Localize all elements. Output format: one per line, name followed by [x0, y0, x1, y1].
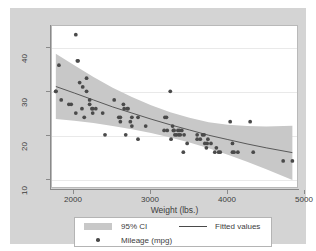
chart-screenshot: 40 30 20 10 2000 3000 4000 5000 Weight (…: [0, 0, 316, 251]
legend-label-fitted-values: Fitted values: [215, 222, 260, 231]
legend-label-ci: 95% CI: [121, 222, 147, 231]
scatter-point: [124, 133, 128, 137]
scatter-point: [69, 102, 73, 106]
scatter-point: [291, 159, 295, 163]
scatter-point: [112, 98, 116, 102]
scatter-point: [136, 115, 140, 119]
scatter-point: [202, 133, 206, 137]
scatter-point: [82, 115, 86, 119]
scatter-point: [118, 120, 122, 124]
scatter-point: [281, 159, 285, 163]
scatter-point: [94, 107, 98, 111]
scatter-point: [228, 120, 232, 124]
scatter-point: [144, 124, 148, 128]
scatter-point: [130, 124, 134, 128]
x-axis-title: Weight (lbs.): [51, 205, 298, 215]
scatter-point: [118, 115, 122, 119]
scatter-point: [218, 150, 222, 154]
scatter-point: [57, 63, 61, 67]
scatter-point: [85, 89, 89, 93]
scatter-point: [165, 115, 169, 119]
scatter-point: [136, 137, 140, 141]
scatter-point: [195, 133, 199, 137]
scatter-point: [251, 150, 255, 154]
scatter-point: [103, 133, 107, 137]
scatter-point: [74, 111, 78, 115]
scatter-point: [172, 129, 176, 133]
y-tick-30: [46, 91, 50, 92]
scatter-point: [178, 133, 182, 137]
y-tick-label-20: 20: [20, 136, 29, 158]
scatter-point: [74, 33, 78, 37]
y-tick-label-40: 40: [20, 48, 29, 70]
scatter-point: [185, 142, 189, 146]
scatter-point: [169, 137, 173, 141]
y-tick-label-10: 10: [20, 180, 29, 202]
legend-swatch-ci: [84, 223, 112, 230]
scatter-point: [165, 129, 169, 133]
scatter-point: [88, 98, 92, 102]
legend-line-fitted: [179, 226, 207, 227]
x-tick-5000: [304, 190, 305, 194]
y-tick-label-30: 30: [20, 92, 29, 114]
plot-canvas: [52, 26, 297, 187]
x-axis-line: [50, 189, 299, 190]
legend-marker-mileage: [96, 238, 100, 242]
chart-legend: 95% CI Fitted values Mileage (mpg): [74, 217, 272, 247]
x-tick-label-5000: 5000: [287, 195, 316, 204]
confidence-interval-band: [56, 54, 293, 180]
scatter-point: [76, 59, 80, 63]
scatter-point: [204, 146, 208, 150]
scatter-point: [122, 102, 126, 106]
scatter-point: [80, 107, 84, 111]
scatter-point: [59, 98, 63, 102]
scatter-point: [206, 137, 210, 141]
scatter-point: [236, 150, 240, 154]
x-tick-2000: [73, 190, 74, 194]
y-tick-20: [46, 135, 50, 136]
scatter-point: [130, 115, 134, 119]
scatter-point: [126, 107, 130, 111]
x-tick-label-3000: 3000: [133, 195, 167, 204]
x-tick-3000: [150, 190, 151, 194]
scatter-point: [78, 81, 82, 85]
legend-row-points: Mileage (mpg): [75, 233, 271, 247]
scatter-point: [231, 142, 235, 146]
scatter-point: [205, 142, 209, 146]
scatter-point: [85, 76, 89, 80]
legend-row-ci: 95% CI Fitted values: [75, 219, 271, 233]
scatter-point: [168, 89, 172, 93]
plot-region: [51, 25, 298, 188]
legend-label-mileage: Mileage (mpg): [121, 236, 172, 245]
scatter-point: [101, 111, 105, 115]
scatter-point: [232, 150, 236, 154]
y-tick-40: [46, 47, 50, 48]
scatter-point: [54, 89, 58, 93]
scatter-point: [198, 137, 202, 141]
x-tick-label-4000: 4000: [210, 195, 244, 204]
figure-background: 40 30 20 10 2000 3000 4000 5000 Weight (…: [10, 8, 306, 244]
scatter-point: [209, 142, 213, 146]
scatter-point: [91, 111, 95, 115]
scatter-point: [213, 150, 217, 154]
x-tick-label-2000: 2000: [56, 195, 90, 204]
scatter-point: [214, 146, 218, 150]
y-axis-line: [50, 25, 51, 189]
scatter-point: [248, 120, 252, 124]
scatter-point: [88, 102, 92, 106]
scatter-point: [171, 124, 175, 128]
scatter-point: [128, 120, 132, 124]
scatter-point: [180, 129, 184, 133]
scatter-point: [181, 150, 185, 154]
scatter-point: [81, 85, 85, 89]
scatter-point: [182, 133, 186, 137]
x-tick-4000: [227, 190, 228, 194]
y-tick-10: [46, 179, 50, 180]
